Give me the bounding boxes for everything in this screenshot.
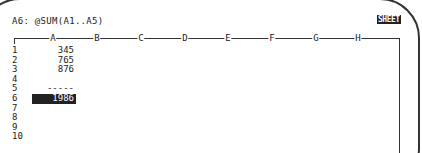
column-header-c[interactable]: C [137,33,144,43]
row-header-10[interactable]: 10 [12,132,23,142]
column-header-line [14,38,400,39]
column-header-a[interactable]: A [49,33,56,43]
frame-left-tick [14,38,15,44]
column-header-f[interactable]: F [268,33,275,43]
column-header-h[interactable]: H [354,33,361,43]
cell-a3[interactable]: 876 [32,65,76,75]
column-header-g[interactable]: G [312,33,319,43]
cell-a6-selected[interactable]: 1986 [32,94,76,104]
column-header-e[interactable]: E [224,33,231,43]
column-header-b[interactable]: B [93,33,100,43]
cell-formula-status: A6: @SUM(A1..A5) [12,16,104,26]
frame-right-border [399,38,400,153]
mode-indicator: SHEET [377,15,401,24]
column-header-d[interactable]: D [181,33,188,43]
